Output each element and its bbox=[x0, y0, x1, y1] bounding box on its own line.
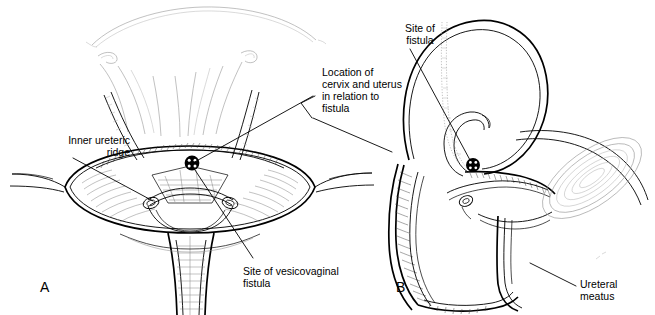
panel-label-a: A bbox=[40, 279, 50, 295]
label-inner-ureteric-ridge-line2: ridge bbox=[107, 146, 131, 158]
label-site-vesicovaginal-fistula-line1: Site of vesicovaginal bbox=[243, 265, 339, 277]
panel-label-b: B bbox=[396, 279, 405, 295]
label-location-cervix-uterus-line2: cervix and uterus bbox=[322, 78, 402, 90]
label-location-cervix-uterus-line3: in relation to bbox=[322, 90, 379, 102]
label-location-cervix-uterus-line4: fistula bbox=[322, 102, 350, 114]
label-ureteral-meatus-line2: meatus bbox=[580, 290, 614, 302]
figure-canvas: Inner ureteric ridge Location of cervix … bbox=[0, 0, 655, 315]
label-site-of-fistula-line2: fistula bbox=[406, 34, 434, 46]
medical-illustration: Inner ureteric ridge Location of cervix … bbox=[0, 0, 655, 315]
label-location-cervix-uterus-line1: Location of bbox=[322, 66, 373, 78]
label-site-of-fistula: Site of fistula bbox=[405, 22, 435, 46]
label-ureteral-meatus-line1: Ureteral bbox=[580, 278, 617, 290]
label-ureteral-meatus: Ureteral meatus bbox=[580, 278, 617, 302]
label-site-vesicovaginal-fistula-line2: fistula bbox=[243, 277, 271, 289]
label-site-of-fistula-line1: Site of bbox=[405, 22, 435, 34]
label-inner-ureteric-ridge-line1: Inner ureteric bbox=[68, 134, 130, 146]
fistula-site-marker bbox=[466, 158, 480, 172]
